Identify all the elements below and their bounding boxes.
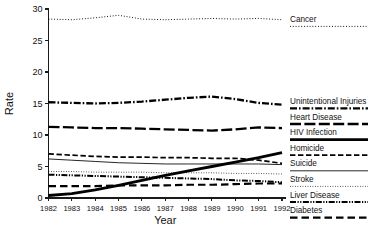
x-axis-tick-label: 1990: [227, 204, 244, 213]
x-axis-tick-label: 1984: [87, 204, 104, 213]
x-axis-title: Year: [154, 214, 177, 226]
y-axis-tick-label: 20: [32, 67, 42, 77]
series-line-hiv-infection: [49, 153, 283, 196]
y-axis-tick-label: 10: [32, 130, 42, 140]
x-axis-tick-label: 1983: [63, 204, 80, 213]
legend-label-cancer[interactable]: Cancer: [290, 15, 317, 24]
legend-label-unintentional-injuries[interactable]: Unintentional Injuries: [290, 97, 366, 106]
x-axis-tick-label: 1987: [157, 204, 174, 213]
legend-label-suicide[interactable]: Suicide: [290, 159, 317, 168]
x-axis-tick-label: 1982: [40, 204, 57, 213]
x-axis-tick-label: 1989: [203, 204, 220, 213]
series-line-unintentional-injuries: [49, 97, 283, 105]
series-line-cancer: [49, 15, 283, 19]
y-axis-tick-label: 0: [37, 193, 42, 203]
y-axis-title: Rate: [3, 92, 15, 115]
y-axis-tick-label: 30: [32, 4, 42, 14]
series-line-stroke: [49, 172, 283, 175]
y-axis-tick-label: 5: [37, 162, 42, 172]
line-chart: 0510152025301982198319841985198619871988…: [0, 0, 373, 232]
x-axis-tick-label: 1991: [250, 204, 267, 213]
legend-label-liver-disease[interactable]: Liver Disease: [290, 191, 340, 200]
legend-label-heart-disease[interactable]: Heart Disease: [290, 113, 342, 122]
x-axis-tick-label: 1988: [180, 204, 197, 213]
x-axis-tick-label: 1986: [133, 204, 150, 213]
x-axis-tick-label: 1992: [274, 204, 291, 213]
y-axis-tick-label: 15: [32, 99, 42, 109]
legend-label-stroke[interactable]: Stroke: [290, 175, 314, 184]
series-line-heart-disease: [49, 127, 283, 131]
legend-label-hiv-infection[interactable]: HIV Infection: [290, 128, 337, 137]
chart-figure: 0510152025301982198319841985198619871988…: [0, 0, 373, 232]
x-axis-tick-label: 1985: [110, 204, 127, 213]
legend-label-homicide[interactable]: Homicide: [290, 144, 325, 153]
y-axis-tick-label: 25: [32, 36, 42, 46]
series-line-diabetes: [49, 184, 283, 187]
legend-label-diabetes[interactable]: Diabetes: [290, 206, 322, 215]
